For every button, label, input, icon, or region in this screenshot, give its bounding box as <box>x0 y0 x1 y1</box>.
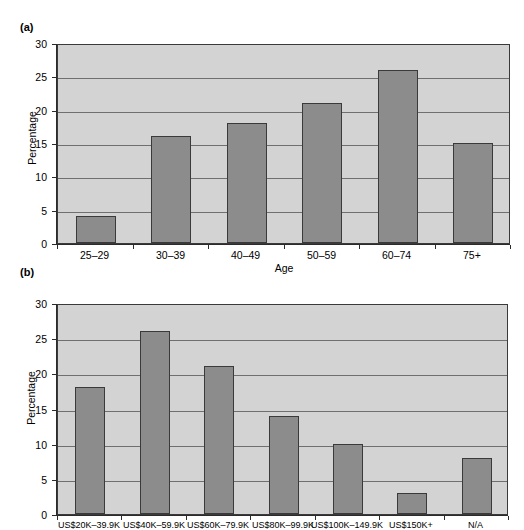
chart-panel-b: (b) Percentage 051015202530US$20K–39.9KU… <box>0 262 524 492</box>
y-axis-tick-label: 15 <box>25 139 47 150</box>
bar <box>302 103 342 243</box>
gridline <box>58 78 509 79</box>
y-axis-tick <box>52 339 56 340</box>
x-axis-tick-label: 60–74 <box>382 250 411 261</box>
bar <box>397 493 427 514</box>
y-axis-tick <box>52 177 56 178</box>
x-axis-tick <box>121 516 122 520</box>
panel-label-b: (b) <box>20 266 34 278</box>
x-axis-tick <box>250 516 251 520</box>
bar <box>204 366 234 514</box>
x-axis-tick-label: 40–49 <box>231 250 260 261</box>
y-axis-tick-label: 0 <box>25 510 47 521</box>
plot-area-a <box>57 44 510 244</box>
x-axis-line-a <box>53 244 510 245</box>
y-axis-line-a <box>56 44 57 244</box>
gridline <box>58 340 507 341</box>
y-axis-line-b <box>56 304 57 515</box>
y-axis-tick-label: 10 <box>25 440 47 451</box>
x-axis-tick-label: US$100K–149.9K <box>311 521 383 530</box>
x-axis-tick <box>379 516 380 520</box>
bar <box>140 331 170 514</box>
gridline <box>58 411 507 412</box>
y-axis-tick-label: 25 <box>25 72 47 83</box>
bar <box>333 444 363 514</box>
y-axis-tick-label: 30 <box>25 39 47 50</box>
x-axis-tick-label: US$80K–99.9K <box>252 521 314 530</box>
y-axis-tick <box>52 144 56 145</box>
bar <box>453 143 493 243</box>
y-axis-tick <box>52 374 56 375</box>
x-axis-tick <box>510 245 511 249</box>
y-axis-tick <box>52 304 56 305</box>
chart-panel-a: (a) Percentage Age 05101520253025–2930–3… <box>0 0 524 262</box>
y-axis-tick <box>52 111 56 112</box>
gridline <box>58 112 509 113</box>
x-axis-tick <box>435 245 436 249</box>
y-axis-tick <box>52 44 56 45</box>
y-axis-tick-label: 5 <box>25 475 47 486</box>
x-axis-tick-label: US$150K+ <box>389 521 433 530</box>
x-axis-tick <box>359 245 360 249</box>
x-axis-tick <box>315 516 316 520</box>
y-axis-tick <box>52 211 56 212</box>
y-axis-tick <box>52 445 56 446</box>
y-axis-tick-label: 25 <box>25 334 47 345</box>
x-axis-tick <box>133 245 134 249</box>
x-axis-tick <box>444 516 445 520</box>
y-axis-tick <box>52 77 56 78</box>
bar <box>269 416 299 514</box>
y-axis-tick-label: 5 <box>25 206 47 217</box>
x-axis-tick-label: 75+ <box>463 250 481 261</box>
x-axis-tick-label: 25–29 <box>80 250 109 261</box>
x-axis-tick <box>284 245 285 249</box>
bar <box>227 123 267 243</box>
y-axis-tick-label: 15 <box>25 405 47 416</box>
gridline <box>58 178 509 179</box>
bar <box>462 458 492 514</box>
x-axis-tick-label: US$20K–39.9K <box>58 521 120 530</box>
panel-label-a: (a) <box>20 21 33 33</box>
x-axis-tick <box>508 516 509 520</box>
x-axis-tick-label: 30–39 <box>156 250 185 261</box>
y-axis-tick-label: 10 <box>25 172 47 183</box>
x-axis-tick <box>57 245 58 249</box>
gridline <box>58 212 509 213</box>
gridline <box>58 145 509 146</box>
gridline <box>58 375 507 376</box>
x-axis-tick-label: US$40K–59.9K <box>123 521 185 530</box>
bar <box>151 136 191 243</box>
y-axis-tick-label: 30 <box>25 299 47 310</box>
x-axis-tick-label: N/A <box>468 521 483 530</box>
x-axis-tick <box>57 516 58 520</box>
y-axis-tick <box>52 410 56 411</box>
y-axis-tick-label: 20 <box>25 106 47 117</box>
x-axis-tick <box>208 245 209 249</box>
y-axis-tick-label: 20 <box>25 369 47 380</box>
x-axis-tick-label: US$60K–79.9K <box>187 521 249 530</box>
bar <box>378 70 418 243</box>
y-axis-tick <box>52 480 56 481</box>
x-axis-tick <box>186 516 187 520</box>
bar <box>76 216 116 243</box>
y-axis-tick-label: 0 <box>25 239 47 250</box>
x-axis-tick-label: 50–59 <box>307 250 336 261</box>
plot-area-b <box>57 304 508 515</box>
bar <box>75 387 105 514</box>
